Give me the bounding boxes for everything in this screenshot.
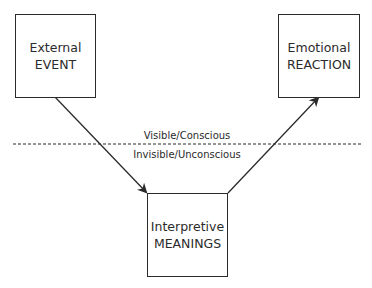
interpretive-meanings-line1: Interpretive xyxy=(151,218,224,235)
external-event-line1: External xyxy=(30,39,82,56)
visible-conscious-label: Visible/Conscious xyxy=(87,130,287,141)
arrow-meanings-to-reaction xyxy=(228,98,318,193)
interpretive-meanings-box: Interpretive MEANINGS xyxy=(147,193,228,277)
emotional-reaction-line2: REACTION xyxy=(287,56,351,73)
interpretive-meanings-line2: MEANINGS xyxy=(154,235,221,252)
emotional-reaction-line1: Emotional xyxy=(288,39,351,56)
external-event-box: External EVENT xyxy=(15,14,96,98)
external-event-line2: EVENT xyxy=(35,56,76,73)
invisible-unconscious-label: Invisible/Unconscious xyxy=(87,149,287,160)
emotional-reaction-box: Emotional REACTION xyxy=(278,14,360,98)
